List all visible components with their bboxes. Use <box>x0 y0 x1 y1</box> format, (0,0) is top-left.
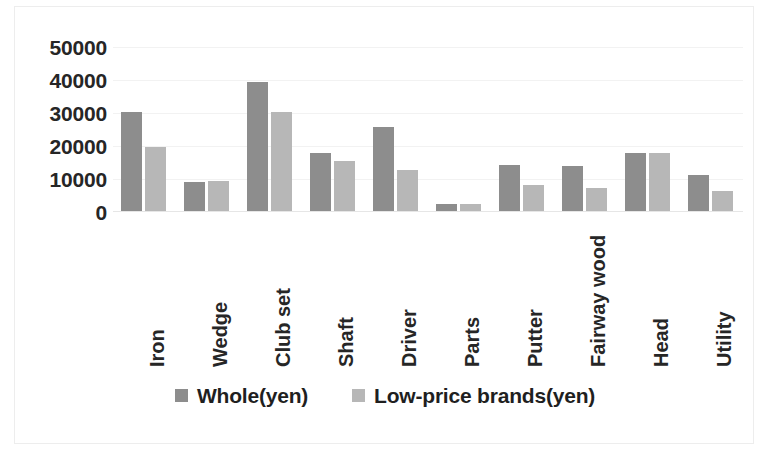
y-axis-tick-label: 0 <box>25 202 107 223</box>
bar-group <box>499 47 562 211</box>
bar-whole <box>688 175 709 211</box>
legend-item[interactable]: Whole(yen) <box>175 385 308 406</box>
bar-group <box>625 47 688 211</box>
bar-low-price <box>397 170 418 211</box>
legend-swatch-low-price <box>352 389 365 402</box>
bar-low-price <box>271 112 292 211</box>
bar-whole <box>499 165 520 211</box>
x-axis-tick-label: Shaft <box>336 317 356 367</box>
x-axis-label-wrapper: Parts <box>442 217 466 367</box>
legend-label: Low-price brands(yen) <box>374 385 595 406</box>
y-axis-tick-label: 10000 <box>25 169 107 190</box>
x-axis-tick-label: Parts <box>462 317 482 367</box>
x-axis-line <box>113 211 743 212</box>
x-axis-tick-label: Head <box>651 318 671 367</box>
x-axis-tick-label: Iron <box>147 329 167 367</box>
y-axis-tick-label: 50000 <box>25 37 107 58</box>
x-axis-label-wrapper: Iron <box>127 217 151 367</box>
bar-group <box>247 47 310 211</box>
bar-low-price <box>586 188 607 211</box>
y-axis-tick-label: 20000 <box>25 136 107 157</box>
bar-low-price <box>649 153 670 211</box>
x-axis-label-wrapper: Club set <box>253 217 277 367</box>
y-axis: 50000400003000020000100000 <box>25 35 107 225</box>
bar-whole <box>373 127 394 211</box>
bar-whole <box>562 166 583 211</box>
x-axis-tick-label: Utility <box>714 311 734 367</box>
x-axis-tick-label: Putter <box>525 309 545 367</box>
bar-group <box>121 47 184 211</box>
x-axis-tick-label: Driver <box>399 309 419 367</box>
x-axis-label-wrapper: Head <box>631 217 655 367</box>
x-axis-label-wrapper: Fairway wood <box>568 217 592 367</box>
bar-low-price <box>334 161 355 211</box>
x-axis-label-wrapper: Putter <box>505 217 529 367</box>
bar-whole <box>247 82 268 211</box>
plot-area <box>113 47 743 212</box>
x-axis-tick-label: Fairway wood <box>588 235 608 367</box>
bar-whole <box>310 153 331 211</box>
bar-group <box>184 47 247 211</box>
bar-low-price <box>145 147 166 211</box>
x-axis-tick-label: Wedge <box>210 302 230 367</box>
bar-group <box>373 47 436 211</box>
bar-whole <box>121 112 142 211</box>
bar-low-price <box>712 191 733 211</box>
bar-whole <box>436 204 457 211</box>
x-axis-category-labels: IronWedgeClub setShaftDriverPartsPutterF… <box>113 217 743 367</box>
bar-whole <box>625 153 646 211</box>
chart-container: 50000400003000020000100000 IronWedgeClub… <box>14 6 754 444</box>
x-axis-label-wrapper: Utility <box>694 217 718 367</box>
bar-group <box>688 47 751 211</box>
x-axis-label-wrapper: Shaft <box>316 217 340 367</box>
legend-label: Whole(yen) <box>197 385 308 406</box>
x-axis-tick-label: Club set <box>273 288 293 367</box>
legend-swatch-whole <box>175 389 188 402</box>
bar-group <box>436 47 499 211</box>
bar-group <box>310 47 373 211</box>
chart-legend: Whole(yen)Low-price brands(yen) <box>15 385 755 406</box>
bar-low-price <box>208 181 229 211</box>
legend-item[interactable]: Low-price brands(yen) <box>352 385 595 406</box>
x-axis-label-wrapper: Wedge <box>190 217 214 367</box>
bar-whole <box>184 182 205 211</box>
bar-low-price <box>523 185 544 211</box>
bar-group <box>562 47 625 211</box>
y-axis-tick-label: 40000 <box>25 70 107 91</box>
x-axis-label-wrapper: Driver <box>379 217 403 367</box>
bar-low-price <box>460 204 481 211</box>
y-axis-tick-label: 30000 <box>25 103 107 124</box>
